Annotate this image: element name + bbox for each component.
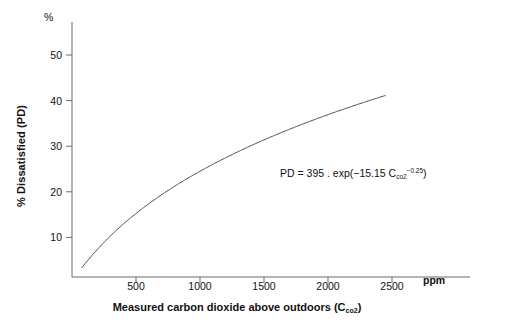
x-axis-title-tail: ) [358,301,362,313]
y-tick-label-10: 10 [36,231,62,243]
x-axis-title-head: Measured carbon dioxide above outdoors (… [113,301,346,313]
x-tick-label-2500: 2500 [372,280,412,292]
equation-annotation: PD = 395 . exp(−15.15 Cco2−0.25) [280,167,427,180]
y-axis-unit-label: % [44,11,53,23]
y-tick-label-50: 50 [36,49,62,61]
equation-subscript: co2 [396,173,406,180]
x-tick-label-1500: 1500 [244,280,284,292]
equation-tail: ) [423,167,427,179]
y-tick-marks [66,55,72,237]
y-axis-title: % Dissatisfied (PD) [15,51,27,261]
x-axis-unit-label: ppm [423,274,445,286]
equation-superscript: −0.25 [407,167,423,174]
pd-curve-line [82,95,386,268]
equation-head: PD = 395 . exp(−15.15 C [280,167,396,179]
x-tick-label-1000: 1000 [180,280,220,292]
axes-group [72,22,470,277]
x-axis-title-subscript: co2 [346,307,358,314]
x-tick-label-2000: 2000 [308,280,348,292]
y-tick-label-40: 40 [36,95,62,107]
x-tick-label-500: 500 [116,280,156,292]
y-tick-label-20: 20 [36,186,62,198]
y-tick-label-30: 30 [36,140,62,152]
chart-figure: % Dissatisfied (PD) % ppm 50 40 30 20 10… [0,0,508,328]
x-axis-title: Measured carbon dioxide above outdoors (… [72,301,402,314]
